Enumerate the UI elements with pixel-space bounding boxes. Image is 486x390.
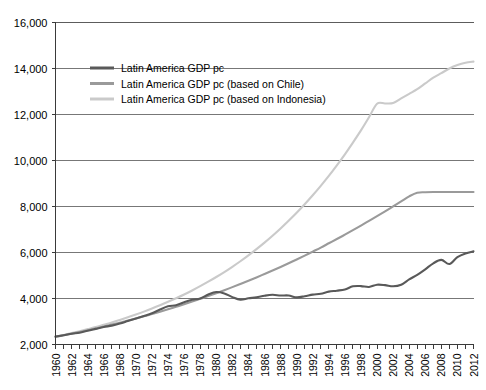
- x-tick-label: 1976: [178, 353, 190, 377]
- x-tick-label: 1978: [194, 353, 206, 377]
- x-tick-label: 1980: [210, 353, 222, 377]
- y-tick-label: 4,000: [20, 293, 48, 305]
- x-tick-label: 1982: [226, 353, 238, 377]
- y-tick-label: 6,000: [20, 247, 48, 259]
- x-tick-label: 1964: [82, 353, 94, 377]
- x-tick-label: 1998: [355, 353, 367, 377]
- x-tick-label: 1984: [242, 353, 254, 377]
- x-tick-label: 1988: [275, 353, 287, 377]
- x-tick-label: 2010: [451, 353, 463, 377]
- y-axis-labels: 2,0004,0006,0008,00010,00012,00014,00016…: [14, 17, 48, 351]
- legend-label: Latin America GDP pc: [121, 62, 224, 74]
- x-tick-label: 2008: [435, 353, 447, 377]
- x-axis-labels: 1960196219641966196819701972197419761978…: [50, 353, 480, 377]
- x-tick-label: 2004: [403, 353, 415, 377]
- x-axis-ticks: [56, 345, 474, 350]
- y-tick-label: 12,000: [14, 109, 48, 121]
- x-tick-label: 1986: [259, 353, 271, 377]
- x-tick-label: 1992: [307, 353, 319, 377]
- x-tick-label: 2012: [468, 353, 480, 377]
- x-tick-label: 1994: [323, 353, 335, 377]
- y-tick-label: 10,000: [14, 155, 48, 167]
- y-tick-label: 8,000: [20, 201, 48, 213]
- legend-label: Latin America GDP pc (based on Chile): [121, 78, 304, 90]
- y-tick-label: 2,000: [20, 339, 48, 351]
- y-axis-ticks: [52, 23, 56, 345]
- y-tick-label: 14,000: [14, 63, 48, 75]
- x-tick-label: 1972: [146, 353, 158, 377]
- y-tick-label: 16,000: [14, 17, 48, 29]
- series-line: [56, 251, 474, 336]
- x-tick-label: 1962: [66, 353, 78, 377]
- x-tick-label: 1968: [114, 353, 126, 377]
- x-tick-label: 2002: [387, 353, 399, 377]
- x-tick-label: 1960: [50, 353, 62, 377]
- x-tick-label: 1996: [339, 353, 351, 377]
- x-tick-label: 1970: [130, 353, 142, 377]
- series-line: [56, 192, 474, 337]
- x-tick-label: 1974: [162, 353, 174, 377]
- x-tick-label: 1966: [98, 353, 110, 377]
- x-tick-label: 1990: [291, 353, 303, 377]
- x-tick-label: 2000: [371, 353, 383, 377]
- chart-canvas: 2,0004,0006,0008,00010,00012,00014,00016…: [0, 0, 486, 390]
- x-tick-label: 2006: [419, 353, 431, 377]
- gdp-line-chart: 2,0004,0006,0008,00010,00012,00014,00016…: [0, 0, 486, 390]
- legend-label: Latin America GDP pc (based on Indonesia…: [121, 93, 326, 105]
- gridlines: [56, 23, 474, 299]
